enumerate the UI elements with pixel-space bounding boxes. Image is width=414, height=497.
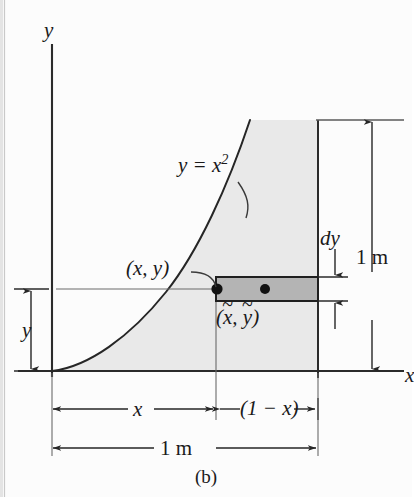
x-axis-label: x xyxy=(405,365,414,386)
strip-centroid-marker xyxy=(260,284,270,294)
tilde-accent-x: ~ xyxy=(222,295,233,315)
tilde-accent-y: ~ xyxy=(242,295,253,315)
y-axis-label: y xyxy=(44,20,53,41)
page-edge-artifact xyxy=(0,0,5,497)
figure-caption: (b) xyxy=(0,466,412,488)
dy-dimension xyxy=(318,249,351,329)
left-y-dimension xyxy=(14,289,49,371)
centroid-paren-close: ) xyxy=(252,305,259,329)
curve-equation-label: y = x2 xyxy=(178,152,228,176)
height-dimension-label: 1 m xyxy=(356,247,388,268)
point-coordinate-label: (x, y) xyxy=(126,258,169,279)
x-span-label: x xyxy=(133,399,142,420)
left-height-label: y xyxy=(22,320,31,341)
one-minus-x-span-label: (1 − x) xyxy=(240,398,298,419)
label-gap-1m-right xyxy=(348,272,396,320)
curve-equation-exponent: 2 xyxy=(221,151,228,167)
total-width-label: 1 m xyxy=(160,438,192,459)
centroid-coordinate-label: (~x, ~y) xyxy=(216,307,259,328)
dy-dimension-label: dy xyxy=(320,228,340,249)
centroid-y-tilde-group: ~y xyxy=(243,307,252,328)
curve-equation-base: y = x xyxy=(178,153,221,177)
curve-point-marker xyxy=(211,283,222,294)
centroid-x-tilde-group: ~x xyxy=(223,307,232,328)
